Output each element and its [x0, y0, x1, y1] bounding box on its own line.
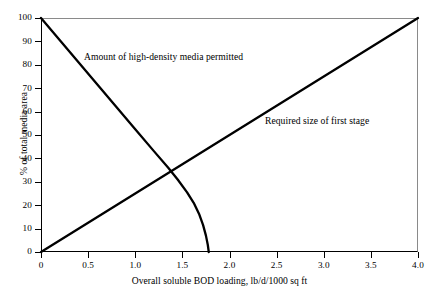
- y-tick-mark: [35, 229, 41, 230]
- x-axis-tick-label: 4.0: [398, 261, 438, 271]
- x-axis-tick-label: 1.5: [162, 261, 202, 271]
- y-tick-mark: [35, 41, 41, 42]
- y-tick-mark: [35, 135, 41, 136]
- x-tick-mark: [182, 252, 183, 258]
- x-tick-mark: [371, 252, 372, 258]
- x-tick-mark: [135, 252, 136, 258]
- x-tick-mark: [88, 252, 89, 258]
- y-axis-title: % of total media area: [18, 54, 29, 214]
- y-axis-tick-label: 10: [6, 224, 32, 233]
- chart-figure: 100 90 80 70 60 50 40 30 20 10 0 0 0.5 1…: [0, 0, 439, 299]
- x-tick-mark: [230, 252, 231, 258]
- y-tick-mark: [35, 158, 41, 159]
- y-tick-mark: [35, 18, 41, 19]
- y-axis-tick-label: 0: [6, 247, 32, 256]
- y-tick-mark: [35, 112, 41, 113]
- x-axis-tick-label: 3.0: [304, 261, 344, 271]
- x-axis-tick-label: 1.0: [115, 261, 155, 271]
- y-axis-tick-label: 90: [6, 37, 32, 46]
- y-tick-mark: [35, 205, 41, 206]
- x-axis-tick-label: 2.5: [257, 261, 297, 271]
- x-tick-mark: [277, 252, 278, 258]
- annotation-high-density-media: Amount of high-density media permitted: [84, 51, 243, 62]
- x-tick-mark: [418, 252, 419, 258]
- y-tick-mark: [35, 88, 41, 89]
- x-axis-tick-label: 0.5: [68, 261, 108, 271]
- x-axis-tick-label: 3.5: [351, 261, 391, 271]
- x-tick-mark: [41, 252, 42, 258]
- x-axis-tick-label: 0: [21, 261, 61, 271]
- x-axis-tick-label: 2.0: [210, 261, 250, 271]
- x-tick-mark: [324, 252, 325, 258]
- x-axis-title: Overall soluble BOD loading, lb/d/1000 s…: [0, 275, 439, 286]
- y-axis-tick-label: 100: [6, 13, 32, 22]
- y-tick-mark: [35, 182, 41, 183]
- y-tick-mark: [35, 65, 41, 66]
- annotation-required-first-stage: Required size of first stage: [265, 115, 369, 126]
